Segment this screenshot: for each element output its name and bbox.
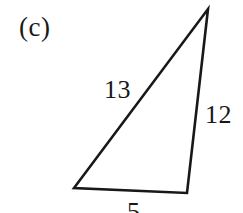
triangle-shape <box>74 9 208 193</box>
figure-container: (c) 13 12 5 <box>0 0 243 213</box>
part-label: (c) <box>19 14 50 41</box>
side-label-right-side: 12 <box>205 102 232 128</box>
side-label-base: 5 <box>127 199 141 213</box>
side-label-hypotenuse: 13 <box>104 77 131 103</box>
